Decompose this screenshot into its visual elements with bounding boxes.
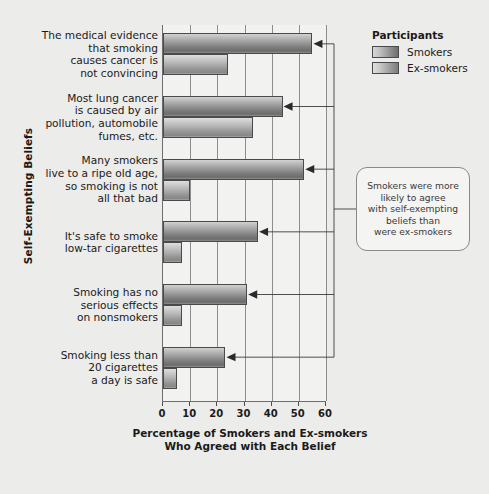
- category-label: The medical evidencethat smokingcauses c…: [26, 29, 158, 79]
- x-tick-label-0: 0: [147, 408, 177, 419]
- x-axis-title: Percentage of Smokers and Ex-smokersWho …: [105, 427, 395, 453]
- category-label: Smoking less than20 cigarettesa day is s…: [26, 349, 158, 387]
- category-label-line: serious effects: [26, 299, 158, 312]
- x-axis-title-line: Who Agreed with Each Belief: [105, 440, 395, 453]
- gridline-10: [190, 25, 191, 401]
- legend-item-exsmokers: Ex-smokers: [372, 62, 468, 74]
- bar-ex-smokers: [163, 368, 177, 389]
- bar-group: [163, 96, 326, 138]
- bar-group: [163, 159, 326, 201]
- category-label-line: on nonsmokers: [26, 311, 158, 324]
- category-label-line: a day is safe: [26, 374, 158, 387]
- x-tick-30: [244, 402, 245, 406]
- bar-smokers: [163, 96, 283, 117]
- x-tick-label-10: 10: [174, 408, 204, 419]
- category-label-line: live to a ripe old age,: [26, 167, 158, 180]
- category-label-line: not convincing: [26, 67, 158, 80]
- annotation-line: were ex-smokers: [367, 226, 459, 238]
- bar-group: [163, 347, 326, 389]
- category-label-line: that smoking: [26, 42, 158, 55]
- gridline-30: [245, 25, 246, 401]
- bar-smokers: [163, 221, 258, 242]
- bar-smokers: [163, 33, 312, 54]
- chart-figure: Self-Exempting Beliefs The medical evide…: [0, 0, 489, 494]
- category-label-line: pollution, automobile: [26, 117, 158, 130]
- category-label: Smoking has noserious effectson nonsmoke…: [26, 286, 158, 324]
- bar-ex-smokers: [163, 180, 190, 201]
- annotation-line: Smokers were more: [367, 180, 459, 192]
- x-axis-title-line: Percentage of Smokers and Ex-smokers: [105, 427, 395, 440]
- legend-item-smokers: Smokers: [372, 46, 468, 58]
- category-label-line: causes cancer is: [26, 54, 158, 67]
- legend: Participants Smokers Ex-smokers: [372, 29, 468, 78]
- bar-group: [163, 221, 326, 263]
- bar-group: [163, 33, 326, 75]
- bar-ex-smokers: [163, 305, 182, 326]
- category-label-group: The medical evidencethat smokingcauses c…: [26, 25, 158, 401]
- category-label: Most lung canceris caused by airpollutio…: [26, 92, 158, 142]
- bar-smokers: [163, 284, 247, 305]
- gridline-20: [217, 25, 218, 401]
- category-label: Many smokerslive to a ripe old age,so sm…: [26, 154, 158, 204]
- bar-group: [163, 284, 326, 326]
- annotation-callout: Smokers were morelikely to agreewith sel…: [356, 167, 470, 251]
- x-tick-40: [271, 402, 272, 406]
- category-label-line: so smoking is not: [26, 180, 158, 193]
- x-tick-0: [162, 402, 163, 406]
- x-tick-label-40: 40: [256, 408, 286, 419]
- bar-ex-smokers: [163, 117, 253, 138]
- legend-label-exsmokers: Ex-smokers: [407, 62, 468, 74]
- x-tick-20: [216, 402, 217, 406]
- x-tick-60: [325, 402, 326, 406]
- category-label-line: Smoking less than: [26, 349, 158, 362]
- annotation-line: with self-exempting: [367, 203, 459, 215]
- bar-smokers: [163, 347, 225, 368]
- x-tick-10: [189, 402, 190, 406]
- category-label-line: all that bad: [26, 192, 158, 205]
- bar-ex-smokers: [163, 242, 182, 263]
- category-label-line: Smoking has no: [26, 286, 158, 299]
- category-label-line: Many smokers: [26, 154, 158, 167]
- category-label-line: fumes, etc.: [26, 130, 158, 143]
- annotation-line: beliefs than: [367, 215, 459, 227]
- category-label-line: It's safe to smoke: [26, 230, 158, 243]
- category-label-line: Most lung cancer: [26, 92, 158, 105]
- legend-title: Participants: [372, 29, 468, 41]
- gridline-40: [272, 25, 273, 401]
- bar-ex-smokers: [163, 54, 228, 75]
- legend-label-smokers: Smokers: [407, 46, 452, 58]
- legend-swatch-exsmokers: [372, 62, 399, 74]
- gridline-50: [299, 25, 300, 401]
- category-label-line: 20 cigarettes: [26, 361, 158, 374]
- annotation-line: likely to agree: [367, 192, 459, 204]
- x-tick-label-60: 60: [310, 408, 340, 419]
- x-tick-label-50: 50: [283, 408, 313, 419]
- legend-swatch-smokers: [372, 46, 399, 58]
- category-label-line: is caused by air: [26, 104, 158, 117]
- gridline-60: [326, 25, 327, 401]
- x-tick-label-30: 30: [229, 408, 259, 419]
- category-label: It's safe to smokelow-tar cigarettes: [26, 230, 158, 255]
- category-label-line: low-tar cigarettes: [26, 242, 158, 255]
- category-label-line: The medical evidence: [26, 29, 158, 42]
- x-tick-50: [298, 402, 299, 406]
- plot-area: [162, 25, 326, 402]
- x-tick-label-20: 20: [201, 408, 231, 419]
- bar-smokers: [163, 159, 304, 180]
- annotation-callout-text: Smokers were morelikely to agreewith sel…: [362, 180, 464, 238]
